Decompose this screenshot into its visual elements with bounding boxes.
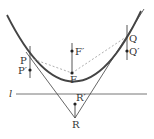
label-r: R xyxy=(72,119,80,130)
label-q-prime: Q′ xyxy=(129,46,140,57)
label-f-prime: F′ xyxy=(75,46,85,57)
label-r-prime: R′ xyxy=(76,92,87,103)
label-f: F xyxy=(70,74,77,85)
point-f-prime xyxy=(70,49,73,52)
diagram-canvas: P P′ F′ F Q Q′ R′ R l xyxy=(0,0,154,139)
parabola-diagram: P P′ F′ F Q Q′ R′ R l xyxy=(0,0,154,139)
point-p-prime xyxy=(28,68,31,71)
label-q: Q xyxy=(129,33,137,44)
tangent-line-p xyxy=(26,52,75,118)
parabola-curve xyxy=(7,11,141,82)
label-directrix-l: l xyxy=(9,88,12,99)
label-p-prime: P′ xyxy=(18,65,28,76)
